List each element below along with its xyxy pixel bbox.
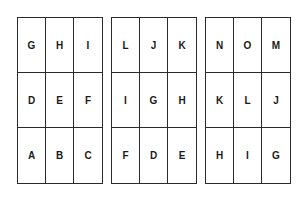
grid-cell: C <box>74 128 102 183</box>
grid-cell: H <box>206 128 234 183</box>
letter-grid-3: N O M K L J H I G <box>205 17 291 184</box>
grid-cell: D <box>18 73 46 128</box>
grid-cell: I <box>234 128 262 183</box>
letter-grid-2: L J K I G H F D E <box>111 17 197 184</box>
grid-cell: I <box>112 73 140 128</box>
grid-cell: A <box>18 128 46 183</box>
grid-cell: J <box>262 73 290 128</box>
grid-cell: K <box>206 73 234 128</box>
grid-cell: E <box>168 128 196 183</box>
grid-cell: M <box>262 18 290 73</box>
grid-cell: G <box>18 18 46 73</box>
grid-cell: D <box>140 128 168 183</box>
letter-grid-1: G H I D E F A B C <box>17 17 103 184</box>
grid-cell: L <box>234 73 262 128</box>
grid-cell: E <box>46 73 74 128</box>
grid-cell: N <box>206 18 234 73</box>
grid-cell: K <box>168 18 196 73</box>
grid-cell: G <box>262 128 290 183</box>
grid-cell: G <box>140 73 168 128</box>
grid-cell: I <box>74 18 102 73</box>
grid-cell: F <box>112 128 140 183</box>
grid-cell: L <box>112 18 140 73</box>
grid-cell: F <box>74 73 102 128</box>
grid-cell: H <box>46 18 74 73</box>
grid-cell: O <box>234 18 262 73</box>
grid-cell: J <box>140 18 168 73</box>
grid-cell: H <box>168 73 196 128</box>
grid-cell: B <box>46 128 74 183</box>
